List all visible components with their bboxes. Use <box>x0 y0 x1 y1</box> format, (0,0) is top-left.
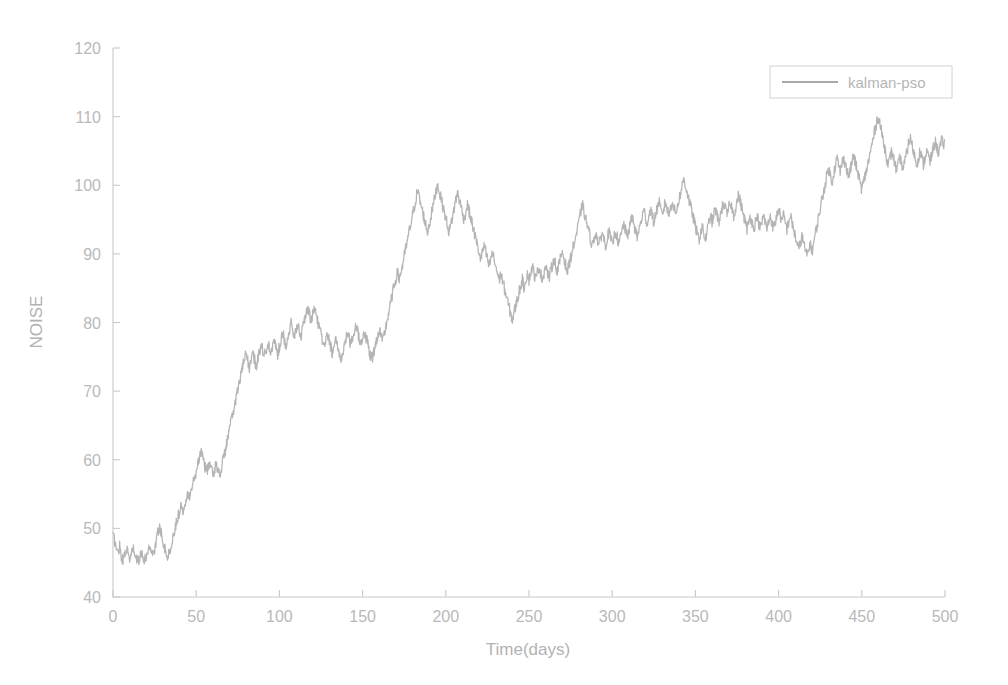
x-tick-label-300: 300 <box>599 608 626 625</box>
chart-canvas: 405060708090100110120 050100150200250300… <box>0 0 1008 685</box>
x-tick-label-350: 350 <box>682 608 709 625</box>
data-series-group <box>113 117 945 565</box>
x-tick-label-450: 450 <box>848 608 875 625</box>
x-tick-label-500: 500 <box>932 608 959 625</box>
x-tick-label-400: 400 <box>765 608 792 625</box>
x-tick-label-150: 150 <box>349 608 376 625</box>
y-tick-label-110: 110 <box>75 109 101 126</box>
y-tick-label-90: 90 <box>83 246 101 263</box>
x-axis-tick-labels: 050100150200250300350400450500 <box>109 608 959 625</box>
y-tick-label-60: 60 <box>83 452 101 469</box>
x-tick-label-200: 200 <box>432 608 459 625</box>
chart-legend: kalman-pso <box>770 66 952 98</box>
x-tick-label-50: 50 <box>187 608 205 625</box>
axes-group <box>113 48 945 597</box>
axis-frame <box>113 48 945 597</box>
y-tick-label-100: 100 <box>74 177 101 194</box>
x-axis-title: Time(days) <box>486 640 570 659</box>
y-tick-label-50: 50 <box>83 520 101 537</box>
y-axis-title: NOISE <box>27 296 46 349</box>
y-tick-label-70: 70 <box>83 383 101 400</box>
legend-label-kalman-pso: kalman-pso <box>848 74 926 91</box>
y-tick-label-120: 120 <box>74 40 101 57</box>
y-tick-label-80: 80 <box>83 315 101 332</box>
y-axis-ticks <box>113 48 120 597</box>
x-axis-ticks <box>113 590 945 597</box>
y-axis-tick-labels: 405060708090100110120 <box>74 40 101 606</box>
chart-figure: 405060708090100110120 050100150200250300… <box>0 0 1008 685</box>
series-line-kalman-pso <box>113 117 945 565</box>
x-tick-label-100: 100 <box>266 608 293 625</box>
y-tick-label-40: 40 <box>83 589 101 606</box>
x-tick-label-250: 250 <box>516 608 543 625</box>
x-tick-label-0: 0 <box>109 608 118 625</box>
